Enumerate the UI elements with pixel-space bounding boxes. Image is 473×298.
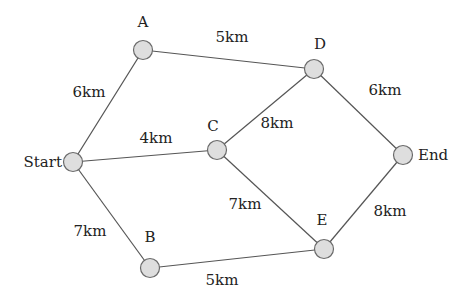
route-graph-diagram: 5km6km4km8km6km7km7km5km8km ADStartCEndB… [0, 0, 473, 298]
node-b [141, 259, 160, 278]
node-start [64, 153, 83, 172]
node-d [305, 60, 324, 79]
node-e [315, 240, 334, 259]
edge-weight-label: 6km [73, 83, 106, 101]
edge-weight-label: 8km [261, 114, 294, 132]
node-end [394, 146, 413, 165]
node-label-start: Start [24, 153, 62, 171]
edge-labels: 5km6km4km8km6km7km7km5km8km [73, 28, 407, 289]
graph-edges [73, 50, 403, 268]
edge-weight-label: 8km [374, 202, 407, 220]
edge-weight-label: 5km [216, 28, 249, 46]
edge-c-d [217, 69, 314, 150]
node-label-b: B [144, 228, 155, 246]
edge-a-d [143, 50, 314, 69]
node-label-e: E [317, 211, 328, 229]
edge-weight-label: 7km [229, 195, 262, 213]
edge-start-c [73, 150, 217, 162]
node-label-a: A [137, 13, 149, 31]
node-label-end: End [418, 146, 449, 164]
edge-start-a [73, 50, 143, 162]
edge-weight-label: 5km [206, 271, 239, 289]
node-a [134, 41, 153, 60]
edge-weight-label: 6km [369, 81, 402, 99]
edge-start-b [73, 162, 150, 268]
edge-b-e [150, 249, 324, 268]
edge-weight-label: 7km [74, 222, 107, 240]
edge-weight-label: 4km [140, 129, 173, 147]
node-label-c: C [207, 117, 218, 135]
node-label-d: D [314, 35, 326, 53]
node-c [208, 141, 227, 160]
